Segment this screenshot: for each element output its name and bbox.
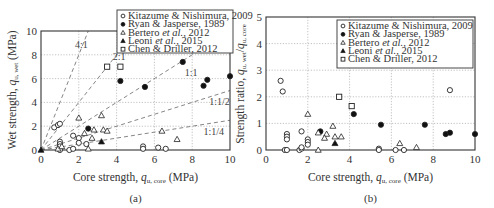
data-point-open-triangle — [413, 144, 419, 149]
legend-label: Chen & Driller, 2012 — [128, 43, 217, 54]
y-tick-label: 3 — [257, 64, 263, 76]
data-point-open-circle — [71, 133, 76, 138]
data-point-filled-triangle — [98, 139, 104, 144]
y-tick-label: 5 — [257, 11, 263, 23]
data-point-open-circle — [284, 137, 289, 142]
x-tick-label: 8 — [189, 153, 195, 165]
legend-label: Chen & Driller, 2012 — [348, 53, 437, 64]
legend-text: Chen & Driller, 2012 — [128, 43, 217, 54]
y-axis-label-unit: (MPa) — [6, 30, 19, 62]
legend-item: Chen & Driller, 2012 — [341, 53, 437, 64]
y-tick-label: 0 — [257, 144, 263, 156]
data-point-open-circle — [299, 129, 304, 134]
data-point-open-circle — [447, 88, 452, 93]
x-tick-label: 2 — [305, 153, 311, 165]
x-axis-label-text: Core strength, — [73, 171, 141, 184]
x-tick-label: 2 — [76, 153, 82, 165]
data-point-filled-circle — [227, 74, 232, 79]
series-filled-circle — [318, 111, 478, 136]
y-tick-label: 2 — [32, 120, 38, 132]
data-point-filled-circle — [118, 78, 123, 83]
y-tick-label: 4 — [257, 38, 263, 50]
chart-b-ratio-vs-core: 0246810012345Kitazume & Nishimura, 2009R… — [234, 11, 481, 205]
ratio-line-label: 1:1 — [185, 67, 198, 78]
series-open-square — [337, 94, 355, 109]
legend-open-square-icon — [341, 57, 345, 61]
y-tick-label: 4 — [32, 96, 38, 108]
y-axis-label-subscript: u, wet — [240, 52, 248, 69]
x-tick-label: 0 — [263, 153, 269, 165]
data-point-open-triangle — [305, 111, 311, 116]
data-point-open-circle — [71, 146, 76, 151]
data-point-filled-circle — [180, 59, 185, 64]
data-point-open-circle — [393, 147, 398, 152]
y-axis-label-text: Wet strength, — [6, 86, 19, 150]
data-point-open-triangle — [397, 140, 403, 145]
x-tick-label: 8 — [430, 153, 436, 165]
series-filled-triangle — [332, 140, 338, 145]
ratio-line-1-1-4 — [41, 120, 230, 150]
data-point-filled-circle — [201, 83, 206, 88]
legend-open-circle-icon — [121, 14, 125, 18]
data-point-open-triangle — [98, 113, 104, 118]
data-point-open-triangle — [89, 135, 95, 140]
data-point-open-square — [349, 104, 354, 109]
x-axis-label-text: Core strength, — [308, 171, 376, 184]
series-open-circle — [278, 78, 452, 152]
y-tick-label: 10 — [26, 25, 38, 37]
legend-text: Chen & Driller, 2012 — [348, 53, 437, 64]
data-point-filled-triangle — [332, 140, 338, 145]
x-tick-label: 4 — [347, 153, 353, 165]
data-point-open-triangle — [330, 123, 336, 128]
data-point-open-circle — [284, 147, 289, 152]
data-point-open-triangle — [338, 134, 344, 139]
x-tick-label: 6 — [389, 153, 395, 165]
y-axis-label-text: Strength ratio, — [234, 75, 247, 144]
y-tick-label: 0 — [32, 144, 38, 156]
data-point-open-square — [337, 94, 342, 99]
chart-caption: (b) — [364, 192, 377, 205]
data-point-filled-circle — [472, 131, 477, 136]
series-open-square — [105, 64, 123, 69]
data-point-open-triangle — [81, 130, 87, 135]
data-point-open-square — [118, 64, 123, 69]
y-tick-label: 6 — [32, 73, 38, 85]
y-tick-label: 2 — [257, 91, 263, 103]
figure-canvas: 4:12:11:11:1/21:1/402468100246810Kitazum… — [0, 0, 494, 208]
ratio-line-label: 4:1 — [75, 39, 88, 50]
data-point-open-circle — [305, 142, 310, 147]
series-open-triangle — [55, 113, 180, 152]
data-point-open-circle — [401, 147, 406, 152]
data-point-filled-circle — [351, 111, 356, 116]
ratio-line-1-1-2 — [41, 91, 230, 151]
data-point-open-circle — [156, 145, 161, 150]
data-point-filled-circle — [447, 130, 452, 135]
y-tick-label: 8 — [32, 49, 38, 61]
data-point-filled-circle — [205, 77, 210, 82]
x-tick-label: 4 — [114, 153, 120, 165]
x-axis-label: Core strength, qu, core (MPa) — [73, 171, 198, 185]
legend-filled-circle-icon — [341, 32, 345, 36]
legend: Kitazume & Nishimura, 2009Ryan & Jaspers… — [337, 20, 473, 68]
y-axis-label: Strength ratio, qu, wet/qu, core — [234, 24, 248, 144]
data-point-open-circle — [280, 89, 285, 94]
data-point-open-triangle — [76, 115, 82, 120]
data-point-filled-circle — [86, 126, 91, 131]
data-point-filled-circle — [378, 122, 383, 127]
ratio-line-label: 1:1/2 — [209, 96, 230, 107]
x-axis-label-subscript: u, core — [382, 177, 401, 185]
data-point-filled-circle — [142, 84, 147, 89]
data-point-open-circle — [140, 146, 145, 151]
legend-item: Chen & Driller, 2012 — [121, 43, 217, 54]
chart-caption: (a) — [129, 192, 142, 205]
data-point-open-square — [105, 64, 110, 69]
data-point-open-circle — [278, 78, 283, 83]
x-tick-label: 6 — [152, 153, 158, 165]
chart-a-wet-vs-core: 4:12:11:11:1/21:1/402468100246810Kitazum… — [6, 10, 253, 205]
y-tick-label: 1 — [257, 117, 263, 129]
x-tick-label: 10 — [470, 153, 482, 165]
x-tick-label: 10 — [225, 153, 237, 165]
y-axis-label: Wet strength, qu, wet (MPa) — [6, 30, 20, 149]
data-points — [38, 59, 233, 152]
data-points — [278, 78, 478, 152]
